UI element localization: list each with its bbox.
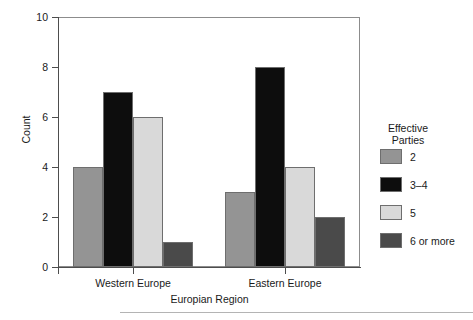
x-tick-group-2 [285, 267, 286, 274]
legend-item-2: 2 [366, 149, 470, 177]
x-tick-group-1 [133, 267, 134, 274]
legend-label-5: 5 [410, 207, 416, 219]
legend-title-line-1: Effective [370, 122, 446, 134]
legend-swatch-3-4 [380, 177, 402, 192]
page-rule [120, 312, 473, 313]
legend-label-6-or-more: 6 or more [410, 235, 455, 247]
legend-swatch-2 [380, 149, 402, 164]
y-axis-title: Count [21, 100, 32, 160]
legend-swatch-5 [380, 205, 402, 220]
legend-item-6-or-more: 6 or more [366, 233, 470, 261]
legend-item-5: 5 [366, 205, 470, 233]
y-tick-label-0: 0 [8, 262, 48, 272]
x-tick-left-edge [58, 267, 59, 274]
y-tick-label-8: 8 [8, 62, 48, 72]
x-axis-line [58, 267, 361, 268]
y-tick-10 [52, 17, 58, 18]
bar-eastern-europe-2 [225, 192, 255, 267]
legend-title: Effective Parties [370, 122, 446, 146]
bar-eastern-europe-3-4 [255, 67, 285, 267]
bar-western-europe-5 [133, 117, 163, 267]
legend-label-2: 2 [410, 151, 416, 163]
y-tick-label-10: 10 [8, 12, 48, 22]
bar-chart-figure: 10 8 6 4 2 0 Count Western Europe Easter… [0, 0, 473, 320]
y-axis-line [58, 17, 59, 268]
y-tick-2 [52, 217, 58, 218]
legend-item-3-4: 3–4 [366, 177, 470, 205]
legend-swatch-6-or-more [380, 233, 402, 248]
x-group-label-western-europe: Western Europe [83, 277, 183, 289]
bar-eastern-europe-5 [285, 167, 315, 267]
y-tick-label-4: 4 [8, 162, 48, 172]
bar-western-europe-6-or-more [163, 242, 193, 267]
bar-eastern-europe-6-or-more [315, 217, 345, 267]
y-tick-6 [52, 117, 58, 118]
x-axis-title: Europian Region [58, 293, 361, 305]
legend: Effective Parties 2 3–4 5 6 or more [366, 122, 470, 261]
y-tick-8 [52, 67, 58, 68]
y-tick-label-2: 2 [8, 212, 48, 222]
bar-western-europe-3-4 [103, 92, 133, 267]
legend-title-line-2: Parties [370, 134, 446, 146]
y-tick-4 [52, 167, 58, 168]
legend-label-3-4: 3–4 [410, 179, 428, 191]
x-group-label-eastern-europe: Eastern Europe [235, 277, 335, 289]
bar-western-europe-2 [73, 167, 103, 267]
